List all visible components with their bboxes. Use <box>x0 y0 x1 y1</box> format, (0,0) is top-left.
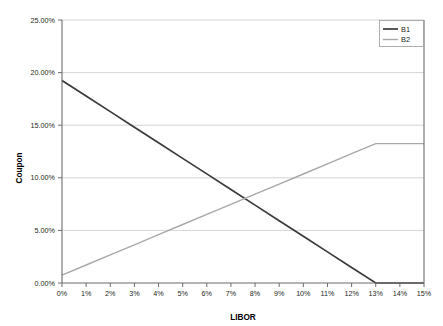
x-tick-label: 4% <box>153 289 164 298</box>
y-tick-label: 20.00% <box>31 68 56 77</box>
legend-label-b2: B2 <box>401 35 410 44</box>
legend-label-b1: B1 <box>401 25 410 34</box>
x-tick-label: 15% <box>417 289 432 298</box>
plot-area-background <box>62 20 424 283</box>
x-tick-label: 8% <box>250 289 261 298</box>
y-tick-label: 25.00% <box>31 16 56 25</box>
y-tick-label: 10.00% <box>31 173 56 182</box>
x-tick-label: 7% <box>226 289 237 298</box>
line-chart: 0.00%5.00%10.00%15.00%20.00%25.00% 0%1%2… <box>0 0 443 326</box>
x-tick-label: 14% <box>393 289 408 298</box>
x-axis-title: LIBOR <box>230 313 256 322</box>
x-tick-label: 1% <box>81 289 92 298</box>
y-axis-title: Coupon <box>15 153 24 184</box>
x-tick-label: 13% <box>369 289 384 298</box>
y-tick-label: 0.00% <box>35 279 56 288</box>
chart-legend[interactable]: B1B2 <box>380 21 424 47</box>
x-tick-label: 10% <box>296 289 311 298</box>
y-tick-label: 5.00% <box>35 226 56 235</box>
x-tick-label: 2% <box>105 289 116 298</box>
x-tick-label: 0% <box>57 289 68 298</box>
x-tick-label: 5% <box>177 289 188 298</box>
x-tick-label: 3% <box>129 289 140 298</box>
chart-canvas: 0.00%5.00%10.00%15.00%20.00%25.00% 0%1%2… <box>0 0 443 326</box>
x-tick-label: 12% <box>344 289 359 298</box>
x-tick-label: 9% <box>274 289 285 298</box>
x-tick-label: 6% <box>202 289 213 298</box>
y-tick-label: 15.00% <box>31 121 56 130</box>
x-tick-label: 11% <box>321 289 335 298</box>
